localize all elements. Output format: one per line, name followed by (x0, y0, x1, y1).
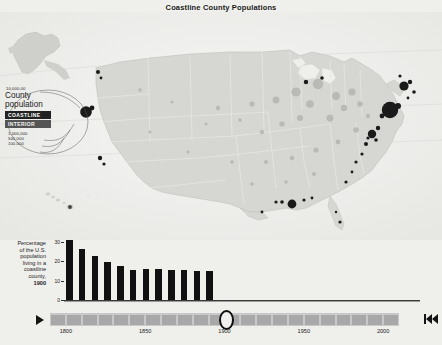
bar-chart-panel: Percentage of the U.S. population living… (0, 238, 442, 310)
caption-year: 1900 (0, 280, 46, 287)
bar-1820[interactable] (104, 262, 111, 300)
bar-1870[interactable] (168, 270, 175, 300)
caption-line-3: living in a (0, 260, 46, 267)
timeline-handle[interactable] (219, 310, 234, 330)
timeline-tick-1800: 1800 (60, 328, 72, 334)
timeline-segment-14[interactable] (273, 315, 287, 325)
bar-1850[interactable] (143, 269, 150, 300)
bar-1790[interactable] (66, 240, 73, 300)
bar-1830[interactable] (117, 266, 124, 300)
timeline-segment-19[interactable] (352, 315, 366, 325)
caption-line-4: coastline (0, 266, 46, 273)
timeline-segment-2[interactable] (83, 315, 97, 325)
caption-line-2: population (0, 253, 46, 260)
timeline-tick-1850: 1850 (139, 328, 151, 334)
y-tick-label-0: 0 (57, 297, 60, 303)
caption-line-0: Percentage (0, 240, 46, 247)
bar-1810[interactable] (92, 256, 99, 300)
y-tick-label-10: 10 (54, 278, 60, 284)
chart-plot-area[interactable] (64, 238, 217, 300)
y-tick-label-20: 20 (54, 258, 60, 264)
chart-caption: Percentage of the U.S. population living… (0, 240, 46, 286)
map-legend: 10,000,00 County population COASTLINE IN… (2, 86, 64, 147)
bar-1890[interactable] (194, 271, 201, 300)
chart-y-axis: 0102030 (46, 238, 64, 306)
legend-value-list: 1,000,000 500,000 100,000 (8, 131, 64, 147)
timeline-segment-20[interactable] (368, 315, 382, 325)
bar-1840[interactable] (130, 270, 137, 300)
timeline-tick-2000: 2000 (377, 328, 389, 334)
caption-line-1: of the U.S. (0, 247, 46, 254)
play-icon[interactable] (36, 315, 44, 325)
skip-to-start-icon[interactable] (424, 314, 438, 324)
y-tick-label-30: 30 (54, 239, 60, 245)
timeline-tick-1950: 1950 (298, 328, 310, 334)
timeline-segment-0[interactable] (51, 315, 65, 325)
legend-swatch-coastline[interactable]: COASTLINE (5, 111, 51, 119)
timeline-segment-17[interactable] (321, 315, 335, 325)
timeline-segment-3[interactable] (99, 315, 113, 325)
chart-axis-line-shadow (64, 301, 420, 302)
timeline-segment-15[interactable] (289, 315, 303, 325)
caption-line-5: county, (0, 273, 46, 280)
legend-title-line2: population (5, 100, 64, 109)
timeline-segment-8[interactable] (178, 315, 192, 325)
visualization-root: Coastline County Populations (0, 0, 442, 345)
timeline-segment-9[interactable] (194, 315, 208, 325)
timeline-segment-7[interactable] (162, 315, 176, 325)
timeline-segment-18[interactable] (337, 315, 351, 325)
us-map[interactable] (0, 12, 442, 240)
timeline-tick-1900: 1900 (218, 328, 230, 334)
timeline-segment-12[interactable] (241, 315, 255, 325)
timeline-segment-1[interactable] (67, 315, 81, 325)
timeline-segment-4[interactable] (114, 315, 128, 325)
timeline-control[interactable]: 18001850190019502000 (0, 310, 442, 345)
map-panel[interactable]: 10,000,00 County population COASTLINE IN… (0, 12, 442, 240)
legend-value-2: 100,000 (8, 141, 64, 146)
timeline-segment-21[interactable] (384, 315, 398, 325)
legend-swatch-interior[interactable]: INTERIOR (5, 120, 51, 128)
timeline-segment-13[interactable] (257, 315, 271, 325)
timeline-segment-6[interactable] (146, 315, 160, 325)
bar-1880[interactable] (181, 270, 188, 300)
legend-title-line1: County (5, 91, 64, 100)
bar-1800[interactable] (79, 249, 86, 300)
timeline-segment-5[interactable] (130, 315, 144, 325)
page-title: Coastline County Populations (0, 3, 442, 12)
bar-1860[interactable] (155, 269, 162, 300)
timeline-segment-16[interactable] (305, 315, 319, 325)
bar-1900[interactable] (206, 271, 213, 300)
